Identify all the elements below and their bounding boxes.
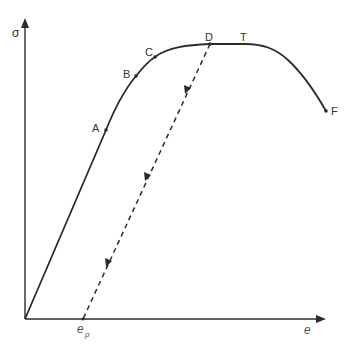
stress-strain-diagram: σ e e p A B C D T F <box>0 0 350 352</box>
y-axis-arrow-icon <box>21 18 29 28</box>
point-b-label: B <box>123 68 130 80</box>
diagram-canvas: σ e e p A B C D T F <box>0 0 350 352</box>
point-c-label: C <box>145 46 153 58</box>
ep-label-subscript: p <box>84 330 90 339</box>
point-a-dot <box>104 128 108 132</box>
x-axis-arrow-icon <box>316 315 326 323</box>
point-t-label: T <box>240 31 247 43</box>
x-axis <box>25 315 326 323</box>
curve-points <box>82 42 328 320</box>
y-axis <box>21 18 29 319</box>
unloading-line <box>83 44 210 319</box>
point-d-label: D <box>205 31 213 43</box>
point-f-dot <box>324 109 328 113</box>
point-b-dot <box>134 74 138 78</box>
y-axis-label: σ <box>12 26 20 40</box>
arrow-down-icon <box>144 172 151 181</box>
point-f-label: F <box>331 105 338 117</box>
point-c-dot <box>153 55 157 59</box>
stress-strain-curve <box>25 44 326 319</box>
point-ep-dot <box>82 318 85 321</box>
x-axis-label: e <box>304 323 311 337</box>
point-a-label: A <box>92 122 100 134</box>
ep-label-main: e <box>77 322 84 336</box>
